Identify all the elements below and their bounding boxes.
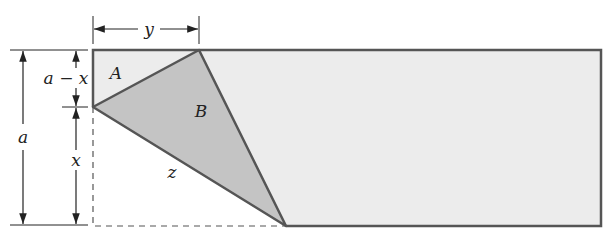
- a-minus-x-label: a − x: [44, 68, 89, 88]
- y-label: y: [143, 19, 154, 39]
- z-label: z: [167, 162, 178, 182]
- region-a-label: A: [108, 63, 122, 83]
- a-label: a: [18, 127, 28, 147]
- region-b-label: B: [194, 101, 208, 121]
- folded-paper-diagram: y a a − x x A B z: [0, 0, 613, 241]
- x-label: x: [71, 150, 81, 170]
